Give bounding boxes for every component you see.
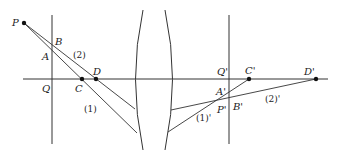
- label-D: D: [92, 66, 101, 77]
- label-A-prime: A': [215, 86, 226, 97]
- point-C-prime: [247, 77, 251, 81]
- label-P-prime: P': [216, 104, 226, 115]
- label-C: C: [75, 83, 83, 94]
- label-C-prime: C': [245, 65, 255, 76]
- point-C: [80, 77, 84, 81]
- label-A: A: [41, 51, 49, 62]
- ray-2-outgoing: [171, 79, 316, 110]
- label-B-prime: B': [232, 101, 243, 112]
- ray-2-incoming: [24, 23, 135, 109]
- label-ray-1-prime: (1)': [196, 113, 211, 123]
- lens-right-surface: [165, 10, 173, 150]
- label-D-prime: D': [303, 66, 315, 77]
- label-ray-1: (1): [84, 104, 97, 114]
- point-P: [22, 21, 26, 25]
- label-B: B: [54, 36, 62, 47]
- label-Q-prime: Q': [217, 66, 228, 77]
- lens-left-surface: [136, 10, 144, 150]
- label-ray-2-prime: (2)': [265, 94, 280, 104]
- label-Q: Q: [42, 83, 50, 94]
- label-ray-2: (2): [73, 50, 86, 60]
- label-P: P: [11, 17, 19, 28]
- lens-ray-diagram: P B A (2) Q C D (1) Q' C' D' A' B' P' (2…: [0, 0, 337, 159]
- point-D: [94, 77, 98, 81]
- point-D-prime: [314, 77, 318, 81]
